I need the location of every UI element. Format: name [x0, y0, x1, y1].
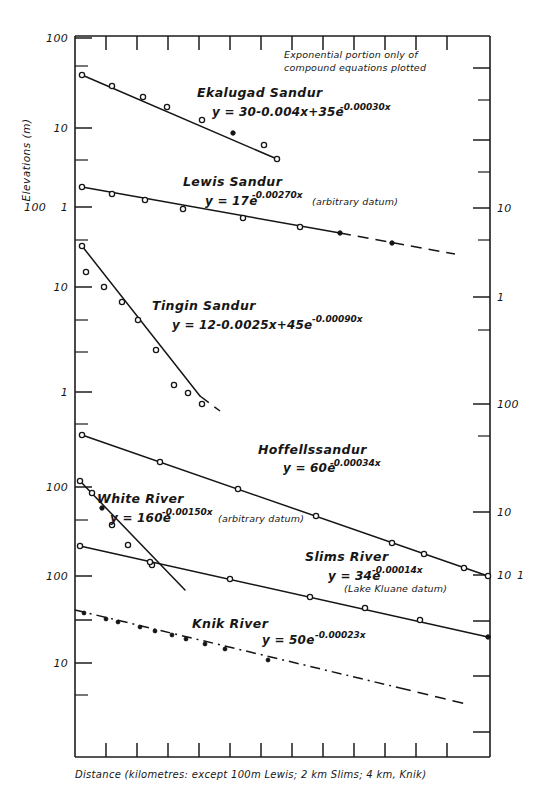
figure-note-line1: Exponential portion only of [284, 49, 419, 60]
data-point [227, 576, 232, 581]
data-point [147, 559, 152, 564]
series-line-lewis-extension [340, 233, 455, 254]
data-point [77, 543, 82, 548]
data-point [101, 284, 106, 289]
figure-note-line2: compound equations plotted [284, 62, 427, 73]
series-equation-lewis: y = 17e [205, 194, 257, 208]
series-knik-river: Knik River y = 50e -0.00023x [75, 610, 470, 705]
data-point [307, 594, 312, 599]
series-exponent-slims: -0.00014x [372, 565, 424, 575]
data-point [231, 131, 235, 135]
left-axis-label: 100 [24, 201, 46, 214]
series-label-slims: Slims River [305, 549, 389, 564]
series-datum-white: (arbitrary datum) [218, 513, 304, 524]
data-point [116, 620, 120, 624]
data-point [362, 605, 367, 610]
series-label-lewis: Lewis Sandur [183, 174, 283, 189]
series-equation-hoffells: y = 60e [283, 461, 335, 475]
right-axis-label: 100 [497, 398, 519, 411]
data-point [142, 197, 147, 202]
data-point [199, 117, 204, 122]
data-point [82, 611, 86, 615]
series-white-river: White River y = 160e -0.00150x (arbitrar… [77, 478, 304, 590]
data-point [140, 94, 145, 99]
data-point [79, 243, 84, 248]
data-point [390, 241, 394, 245]
series-equation-ekalugad: y = 30-0.004x+35e [212, 105, 344, 119]
series-exponent-knik: -0.00023x [315, 630, 367, 640]
right-axis-label: 10 [497, 569, 512, 582]
series-label-ekalugad: Ekalugad Sandur [197, 85, 323, 100]
left-axis-label: 10 [53, 657, 68, 670]
data-point [184, 637, 188, 641]
left-axis-label: 10 [53, 122, 68, 135]
bottom-axis-ticks [106, 743, 447, 757]
series-exponent-white: -0.00150x [162, 507, 214, 517]
data-point [157, 459, 162, 464]
data-point [89, 490, 94, 495]
data-point [203, 642, 207, 646]
data-point [338, 231, 342, 235]
data-point [100, 506, 104, 510]
data-point [313, 513, 318, 518]
plot-frame [75, 36, 490, 757]
data-point [417, 617, 422, 622]
series-exponent-hoffells: -0.00034x [330, 458, 382, 468]
figure-note: Exponential portion only of compound equ… [284, 49, 427, 73]
data-point [153, 347, 158, 352]
data-point [83, 269, 88, 274]
series-datum-lewis: (arbitrary datum) [312, 196, 398, 207]
series-label-white: White River [97, 491, 184, 506]
data-point [171, 382, 176, 387]
data-point [125, 542, 130, 547]
left-axis-label: 10 [53, 281, 68, 294]
data-point [138, 625, 142, 629]
data-point [485, 573, 490, 578]
semilog-profile-chart: 100 10 100 1 10 1 100 100 10 10 1 100 10… [0, 0, 540, 806]
left-axis-label: 100 [46, 570, 68, 583]
left-axis-label: 100 [46, 32, 68, 45]
data-point [170, 633, 174, 637]
data-point [79, 432, 84, 437]
data-point [164, 104, 169, 109]
x-axis-title: Distance (kilometres: except 100m Lewis;… [75, 769, 426, 780]
data-point [119, 299, 124, 304]
data-point [297, 224, 302, 229]
left-axis-label: 100 [46, 481, 68, 494]
data-point [266, 658, 270, 662]
series-datum-slims: (Lake Kluane datum) [344, 583, 447, 594]
series-line-knik-extension [400, 688, 470, 705]
series-ekalugad-sandur: Ekalugad Sandur y = 30-0.004x+35e -0.000… [79, 72, 391, 161]
series-exponent-lewis: -0.00270x [252, 190, 304, 200]
series-label-knik: Knik River [192, 616, 269, 631]
data-point [461, 565, 466, 570]
right-axis-labels: 10 1 100 10 10 1 [497, 202, 524, 582]
data-point [104, 617, 108, 621]
data-point [180, 206, 185, 211]
data-point [109, 191, 114, 196]
data-point [109, 83, 114, 88]
series-equation-tingin: y = 12-0.0025x+45e [172, 318, 312, 332]
data-point [77, 478, 82, 483]
data-point [421, 551, 426, 556]
right-axis-label: 10 [497, 202, 512, 215]
right-axis-label: 10 [497, 506, 512, 519]
left-axis-label: 1 [61, 201, 68, 214]
right-axis-label: 1 [497, 291, 504, 304]
data-point [153, 629, 157, 633]
data-point [261, 142, 266, 147]
data-point [274, 156, 279, 161]
data-point [135, 317, 140, 322]
y-axis-title: Elevations (m) [20, 118, 32, 201]
data-point [235, 486, 240, 491]
series-tingin-sandur: Tingin Sandur y = 12-0.0025x+45e -0.0009… [79, 243, 363, 411]
right-axis-ticks [473, 68, 490, 732]
series-exponent-ekalugad: -0.00030x [340, 102, 392, 112]
data-point [79, 184, 84, 189]
series-label-hoffells: Hoffellssandur [258, 442, 367, 457]
series-exponent-tingin: -0.00090x [312, 314, 364, 324]
left-axis-label: 1 [61, 386, 68, 399]
top-axis-ticks [106, 36, 447, 50]
series-equation-knik: y = 50e [262, 633, 314, 647]
data-point [486, 635, 490, 639]
